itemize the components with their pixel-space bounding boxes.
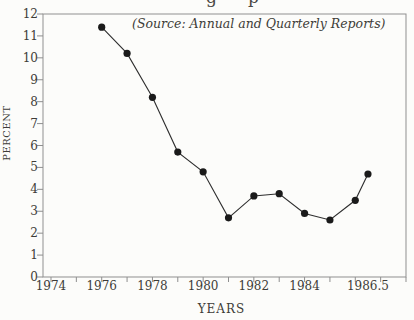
data-point (326, 216, 333, 223)
x-tick-label: 1974 (36, 279, 67, 293)
x-tick-label: 1986.5 (347, 279, 389, 293)
data-point (301, 210, 308, 217)
x-axis-title: YEARS (197, 302, 246, 316)
y-tick-label: 9 (30, 73, 38, 87)
y-tick-label: 12 (23, 7, 38, 21)
y-tick-label: 6 (30, 139, 38, 153)
x-tick-label: 1976 (86, 279, 117, 293)
data-point (250, 192, 257, 199)
data-point (364, 170, 371, 177)
y-tick-label: 11 (23, 29, 38, 43)
plot-frame (43, 14, 406, 277)
y-tick-label: 4 (30, 182, 38, 196)
y-tick-label: 1 (30, 248, 38, 262)
data-point (276, 190, 283, 197)
y-tick-label: 3 (30, 204, 38, 218)
x-tick-label: 1982 (239, 279, 270, 293)
data-point (123, 50, 130, 57)
data-point (225, 214, 232, 221)
y-tick-label: 7 (30, 117, 38, 131)
x-tick-label: 1980 (188, 279, 219, 293)
data-point (174, 148, 181, 155)
y-tick-label: 8 (30, 95, 38, 109)
line-chart-plot: 1974197619781980198219841986.50123456789… (0, 0, 414, 320)
y-tick-label: 10 (23, 51, 38, 65)
y-axis-title: PERCENT (1, 105, 12, 160)
data-point (98, 24, 105, 31)
data-point (149, 94, 156, 101)
y-tick-label: 0 (30, 270, 38, 284)
x-tick-label: 1984 (289, 279, 320, 293)
data-point (200, 168, 207, 175)
data-line (102, 27, 368, 220)
y-tick-label: 2 (30, 226, 38, 240)
data-point (352, 197, 359, 204)
x-tick-label: 1978 (137, 279, 168, 293)
chart-figure: g p (Source: Annual and Quarterly Report… (0, 0, 414, 320)
y-tick-label: 5 (30, 160, 38, 174)
